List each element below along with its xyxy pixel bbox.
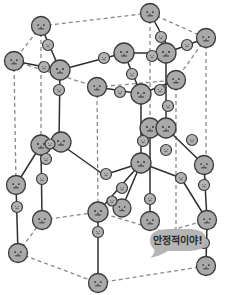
oxygen-atom bbox=[167, 71, 186, 90]
oxygen-atom bbox=[114, 43, 134, 63]
speech-bubble-text: 안정적이야! bbox=[153, 234, 203, 246]
oxygen-atom bbox=[88, 78, 107, 97]
hydrogen-atom bbox=[41, 154, 52, 165]
hydrogen-atom bbox=[147, 51, 158, 62]
hydrogen-atom bbox=[155, 85, 166, 96]
oxygen-atom bbox=[131, 153, 151, 173]
hydrogen-atom bbox=[138, 136, 149, 147]
hydrogen-atom bbox=[161, 145, 172, 156]
oxygen-atom bbox=[89, 274, 108, 293]
hydrogen-atom bbox=[45, 139, 55, 149]
hydrogen-atom bbox=[101, 169, 112, 180]
hydrogen-atom bbox=[163, 101, 174, 112]
speech-bubble: 안정적이야! bbox=[150, 229, 206, 258]
hydrogen-atom bbox=[117, 183, 128, 194]
hydrogen-atom bbox=[99, 53, 110, 64]
hydrogen-atom bbox=[54, 85, 65, 96]
oxygen-atom bbox=[50, 60, 70, 80]
oxygen-atom bbox=[9, 244, 28, 263]
oxygen-atom bbox=[141, 4, 160, 23]
hydrogen-atom bbox=[39, 62, 50, 73]
oxygen-atom bbox=[33, 211, 52, 230]
oxygen-atom bbox=[7, 176, 26, 195]
oxygen-atom bbox=[195, 156, 214, 175]
hydrogen-atom bbox=[199, 180, 210, 191]
oxygen-atom bbox=[198, 211, 217, 230]
oxygen-atom bbox=[131, 84, 151, 104]
ice-lattice-diagram: 안정적이야! bbox=[0, 0, 248, 295]
oxygen-atom bbox=[197, 257, 216, 276]
hydrogen-atom bbox=[145, 194, 156, 205]
oxygen-atom bbox=[197, 29, 216, 48]
oxygen-atom bbox=[32, 17, 51, 36]
hydrogen-atom bbox=[176, 173, 187, 184]
hydrogen-atom bbox=[107, 196, 117, 206]
hydrogen-atom bbox=[115, 87, 126, 98]
hydrogen-atom bbox=[187, 135, 198, 146]
oxygen-atom bbox=[141, 212, 160, 231]
hydrogen-atom bbox=[12, 202, 23, 213]
hydrogen-atom bbox=[156, 32, 167, 43]
hydrogen-atom bbox=[37, 174, 48, 185]
hydrogen-atom bbox=[127, 69, 138, 80]
hydrogen-atom bbox=[43, 40, 54, 51]
oxygen-atom bbox=[156, 43, 176, 63]
oxygen-atom bbox=[88, 202, 108, 222]
oxygen-atom bbox=[5, 52, 24, 71]
oxygen-atom bbox=[156, 118, 176, 138]
hydrogen-atom bbox=[93, 227, 104, 238]
hydrogen-atom bbox=[182, 40, 193, 51]
